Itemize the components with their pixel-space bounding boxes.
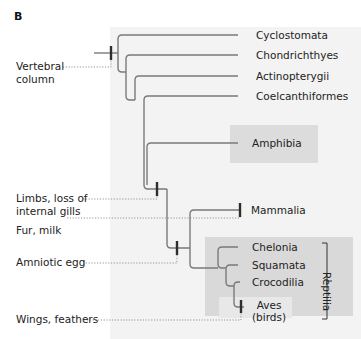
taxon-mammalia: Mammalia bbox=[251, 204, 306, 216]
taxon-aves-common: (birds) bbox=[252, 311, 286, 323]
trait-limbs: Limbs, loss of internal gills bbox=[16, 192, 88, 218]
taxon-aves-name: Aves bbox=[252, 299, 286, 311]
taxon-chondrichthyes: Chondrichthyes bbox=[256, 49, 338, 61]
trait-vertebral-line2: column bbox=[16, 73, 64, 86]
taxon-chelonia: Chelonia bbox=[252, 241, 298, 253]
trait-fur-milk: Fur, milk bbox=[16, 224, 61, 237]
taxon-squamata: Squamata bbox=[252, 259, 306, 271]
trait-wings-feathers: Wings, feathers bbox=[16, 313, 98, 326]
clade-label-reptilia: Reptilia bbox=[321, 272, 333, 311]
trait-limbs-line1: Limbs, loss of bbox=[16, 192, 88, 205]
taxon-cyclostomata: Cyclostomata bbox=[256, 29, 328, 41]
taxon-aves: Aves (birds) bbox=[252, 299, 286, 323]
taxon-coelcanthiformes: Coelcanthiformes bbox=[256, 90, 348, 102]
trait-vertebral-column: Vertebral column bbox=[16, 60, 64, 86]
taxon-crocodilia: Crocodilia bbox=[252, 276, 304, 288]
taxon-amphibia: Amphibia bbox=[252, 137, 302, 149]
trait-amniotic-egg: Amniotic egg bbox=[16, 256, 85, 269]
trait-limbs-line2: internal gills bbox=[16, 205, 88, 218]
taxon-actinopterygii: Actinopterygii bbox=[256, 70, 329, 82]
trait-vertebral-line1: Vertebral bbox=[16, 60, 64, 73]
